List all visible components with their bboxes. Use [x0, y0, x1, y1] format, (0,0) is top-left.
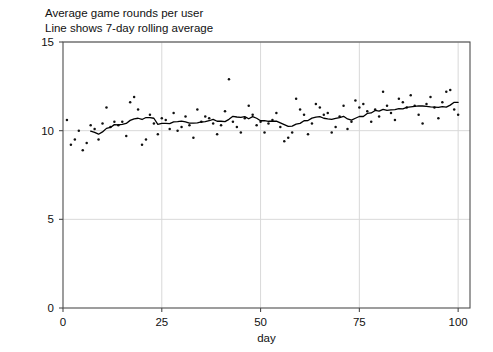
data-point: [176, 129, 179, 132]
axis-ticks: [59, 42, 458, 312]
y-tick-label: 0: [48, 302, 54, 314]
data-point: [279, 126, 282, 128]
data-point: [113, 121, 116, 124]
x-tick-label: 50: [254, 316, 267, 328]
data-point: [323, 113, 326, 116]
data-point: [315, 103, 318, 106]
data-point: [429, 96, 432, 99]
plot-border: [63, 42, 470, 308]
chart-container: Average game rounds per user Line shows …: [0, 0, 493, 352]
data-points: [66, 78, 460, 151]
data-point: [82, 149, 85, 152]
data-point: [409, 94, 412, 97]
rolling-average-path: [91, 102, 458, 134]
data-point: [370, 121, 373, 124]
data-point: [441, 101, 444, 104]
data-point: [133, 96, 136, 99]
data-point: [402, 101, 405, 104]
data-point: [153, 122, 156, 125]
data-point: [220, 124, 223, 127]
data-point: [145, 138, 148, 141]
data-point: [445, 90, 448, 93]
data-point: [398, 98, 401, 101]
x-tick-label: 75: [353, 316, 366, 328]
data-point: [232, 121, 235, 124]
data-point: [350, 121, 353, 124]
data-point: [212, 122, 215, 125]
data-point: [386, 105, 389, 108]
data-point: [149, 113, 152, 116]
data-point: [208, 117, 211, 120]
data-point: [137, 108, 140, 111]
data-point: [228, 78, 231, 81]
data-point: [307, 133, 310, 136]
data-point: [188, 124, 191, 127]
data-point: [125, 135, 128, 138]
data-point: [311, 122, 314, 125]
data-point: [78, 129, 81, 132]
data-point: [382, 90, 385, 93]
data-point: [192, 137, 195, 140]
data-point: [394, 119, 397, 122]
data-point: [453, 108, 456, 111]
data-point: [70, 144, 73, 147]
x-tick-label: 25: [155, 316, 168, 328]
data-point: [303, 113, 306, 116]
data-point: [251, 113, 254, 116]
data-point: [327, 112, 330, 115]
data-point: [346, 128, 349, 131]
data-point: [240, 131, 243, 134]
data-point: [97, 138, 100, 141]
data-point: [129, 101, 132, 104]
data-point: [184, 115, 187, 118]
data-point: [390, 112, 393, 115]
data-point: [342, 105, 345, 108]
data-point: [85, 142, 88, 145]
y-tick-label: 10: [41, 125, 54, 137]
x-tick-label: 0: [60, 316, 66, 328]
data-point: [425, 103, 428, 106]
data-point: [224, 110, 227, 113]
data-point: [267, 122, 270, 125]
scatter-plot: 0510150255075100day: [0, 0, 493, 352]
data-point: [287, 137, 290, 140]
data-point: [204, 115, 207, 118]
data-point: [299, 108, 302, 111]
data-point: [366, 110, 369, 113]
x-tick-label: 100: [449, 316, 468, 328]
data-point: [291, 131, 294, 134]
plot-frame: [63, 42, 470, 308]
data-point: [263, 131, 266, 134]
data-point: [334, 126, 337, 128]
data-point: [157, 133, 160, 136]
data-point: [319, 106, 322, 109]
data-point: [66, 119, 69, 122]
data-point: [255, 124, 258, 127]
data-point: [437, 117, 440, 120]
data-point: [161, 117, 164, 120]
data-point: [275, 112, 278, 115]
data-point: [89, 124, 92, 127]
data-point: [330, 131, 333, 134]
data-point: [378, 115, 381, 118]
data-point: [164, 119, 167, 122]
rolling-average-line: [91, 102, 458, 134]
data-point: [121, 121, 124, 124]
data-point: [362, 103, 365, 106]
data-point: [180, 126, 183, 128]
data-point: [236, 126, 239, 128]
gridlines: [63, 42, 470, 308]
data-point: [421, 122, 424, 125]
data-point: [216, 133, 219, 136]
data-point: [168, 128, 171, 131]
data-point: [74, 138, 77, 141]
data-point: [457, 113, 460, 116]
data-point: [93, 128, 96, 131]
y-tick-label: 5: [48, 213, 54, 225]
data-point: [141, 144, 144, 147]
data-point: [196, 108, 199, 111]
data-point: [358, 106, 361, 109]
data-point: [283, 140, 286, 143]
data-point: [105, 106, 108, 109]
data-point: [295, 98, 298, 101]
